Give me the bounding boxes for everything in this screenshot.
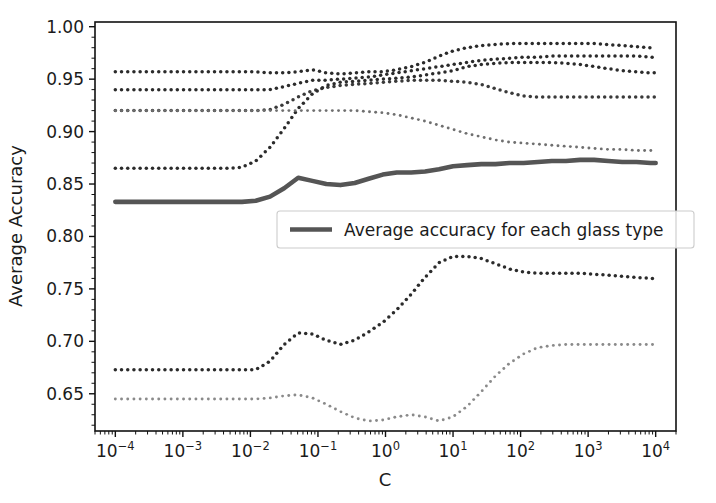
- x-tick-label: 102: [506, 439, 535, 461]
- y-tick-label: 0.95: [46, 69, 84, 89]
- y-tick-label: 1.00: [46, 17, 84, 37]
- y-axis-label: Average Accuracy: [5, 145, 26, 307]
- chart-canvas: 1.000.950.900.850.800.750.700.65 10−410−…: [0, 0, 716, 503]
- legend[interactable]: Average accuracy for each glass type: [277, 211, 694, 248]
- y-tick-label: 0.80: [46, 226, 84, 246]
- matplotlib-figure: 1.000.950.900.850.800.750.700.65 10−410−…: [0, 0, 716, 503]
- y-tick-label: 0.65: [46, 384, 84, 404]
- y-tick-label: 0.85: [46, 174, 84, 194]
- x-tick-label: 101: [439, 439, 468, 461]
- x-tick-label: 10−2: [231, 439, 270, 461]
- y-tick-label: 0.70: [46, 331, 84, 351]
- x-tick-label: 103: [574, 439, 603, 461]
- x-tick-label: 10−4: [96, 439, 135, 461]
- x-tick-label: 100: [371, 439, 400, 461]
- legend-entry-label: Average accuracy for each glass type: [344, 220, 664, 240]
- x-axis-label: C: [379, 469, 392, 490]
- x-tick-label: 104: [641, 439, 670, 461]
- x-tick-label: 10−3: [164, 439, 203, 461]
- x-axis-ticks: 10−410−310−210−1100101102103104: [96, 431, 670, 461]
- y-tick-label: 0.90: [46, 122, 84, 142]
- x-tick-label: 10−1: [299, 439, 338, 461]
- y-tick-label: 0.75: [46, 279, 84, 299]
- y-axis-ticks: 1.000.950.900.850.800.750.700.65: [46, 17, 95, 404]
